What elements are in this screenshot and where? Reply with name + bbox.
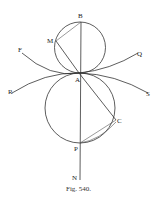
curve-fq <box>22 53 138 74</box>
label-r: R <box>8 88 13 96</box>
label-a: A <box>75 76 80 84</box>
upper-circle <box>55 22 106 73</box>
label-f: F <box>18 46 22 54</box>
label-n: N <box>72 174 77 182</box>
label-p: P <box>74 145 78 153</box>
chord-ma <box>56 41 79 73</box>
figure-caption: Fig. 540. <box>66 185 91 193</box>
label-b: B <box>78 12 83 20</box>
label-s: S <box>146 90 150 98</box>
diagram-canvas: B M F Q A R S C P N Fig. 540. <box>0 0 157 204</box>
label-c: C <box>117 117 122 125</box>
vertical-axis-line <box>80 22 81 180</box>
label-m: M <box>47 37 54 45</box>
chord-ac <box>79 73 116 120</box>
label-q: Q <box>137 50 142 58</box>
chord-cp <box>80 120 116 143</box>
